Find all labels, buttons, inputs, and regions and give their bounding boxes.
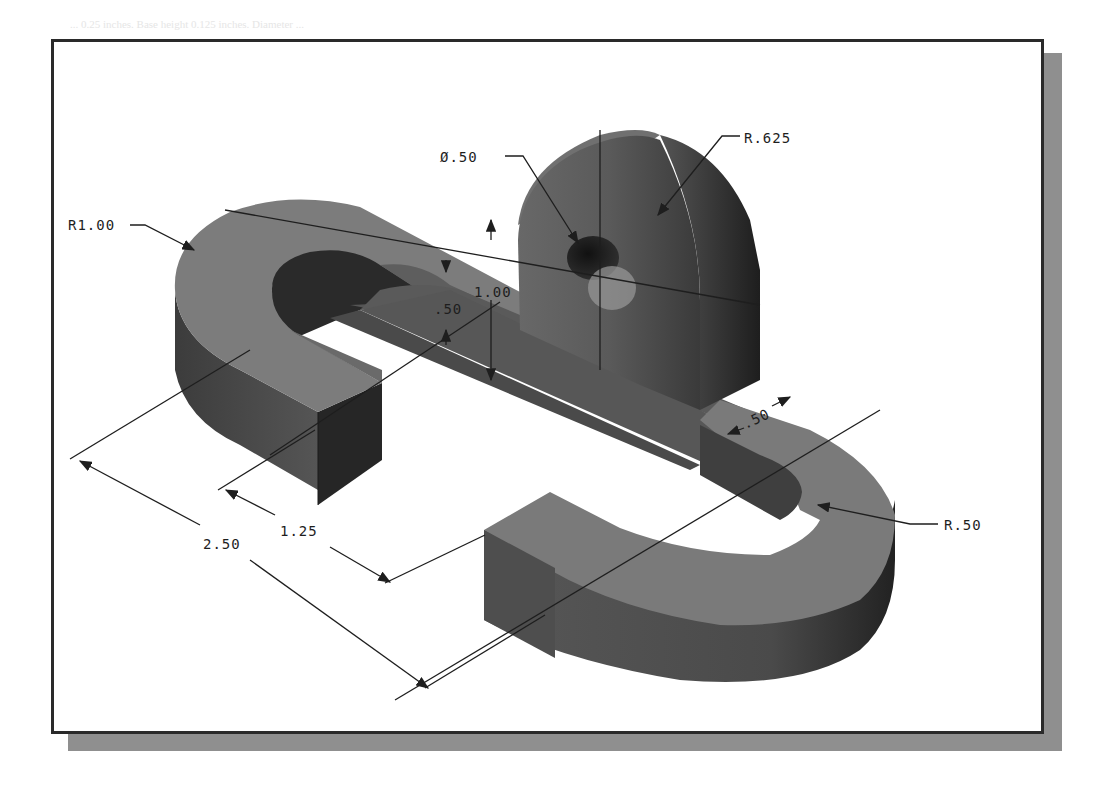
outer-radius-leader bbox=[130, 225, 194, 250]
label-leg-offset: 1.25 bbox=[280, 523, 318, 539]
label-inner-radius: R.50 bbox=[944, 517, 982, 533]
label-boss-radius: R.625 bbox=[744, 130, 791, 146]
label-hole-diameter: Ø.50 bbox=[440, 149, 478, 165]
label-overall-offset: 2.50 bbox=[203, 536, 241, 552]
isometric-part-drawing: Ø.50 R.625 R1.00 R.50 .50 1.00 .50 1.25 … bbox=[0, 0, 1105, 786]
label-boss-height: 1.00 bbox=[474, 284, 512, 300]
label-thickness: .50 bbox=[434, 301, 462, 317]
label-outer-radius: R1.00 bbox=[68, 217, 115, 233]
